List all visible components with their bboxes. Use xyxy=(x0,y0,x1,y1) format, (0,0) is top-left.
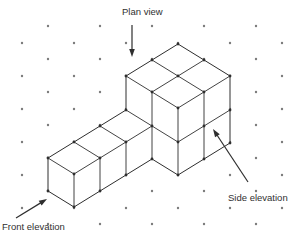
grid-dot xyxy=(229,207,231,209)
grid-dot xyxy=(99,25,101,27)
grid-dot xyxy=(125,42,127,44)
grid-dot xyxy=(151,25,153,27)
vertex-dot xyxy=(47,157,50,160)
grid-dot xyxy=(281,108,283,110)
grid-dot xyxy=(125,207,127,209)
grid-dot xyxy=(281,207,283,209)
grid-dot xyxy=(99,58,101,60)
vertex-dot xyxy=(151,158,154,161)
vertex-dot xyxy=(99,125,102,128)
grid-dot xyxy=(281,75,283,77)
vertex-dot xyxy=(229,142,232,145)
grid-dot xyxy=(255,58,257,60)
vertex-dot xyxy=(203,59,206,62)
grid-dot xyxy=(255,25,257,27)
vertex-dot xyxy=(125,141,128,144)
grid-dot xyxy=(21,75,23,77)
vertex-dot xyxy=(229,75,232,78)
grid-dot xyxy=(177,207,179,209)
vertex-dot xyxy=(125,75,128,78)
front-elevation-arrow-shaft xyxy=(16,202,42,218)
vertex-dot xyxy=(177,107,180,110)
side-elevation-arrow-shaft xyxy=(216,134,248,182)
grid-dot xyxy=(47,58,49,60)
grid-dot xyxy=(21,42,23,44)
vertex-dot xyxy=(203,91,206,94)
vertex-dot xyxy=(177,141,180,144)
grid-dot xyxy=(203,223,205,225)
vertex-dot xyxy=(151,91,154,94)
grid-dot xyxy=(21,174,23,176)
grid-dot xyxy=(229,42,231,44)
grid-dot xyxy=(281,174,283,176)
side-elevation-label: Side elevation xyxy=(228,192,288,203)
vertex-dot xyxy=(177,43,180,46)
grid-dot xyxy=(151,223,153,225)
vertex-dot xyxy=(73,173,76,176)
vertex-dot xyxy=(99,157,102,160)
grid-dot xyxy=(281,141,283,143)
isometric-diagram: Plan view Front elevation Side elevation xyxy=(0,0,292,235)
vertex-dot xyxy=(203,158,206,161)
grid-dot xyxy=(21,207,23,209)
vertex-dot xyxy=(177,174,180,177)
vertex-dot xyxy=(177,75,180,78)
grid-dot xyxy=(255,223,257,225)
grid-dot xyxy=(203,190,205,192)
grid-dot xyxy=(73,42,75,44)
grid-dot xyxy=(47,25,49,27)
vertex-dot xyxy=(125,174,128,177)
vertex-dot xyxy=(229,109,232,112)
grid-dot xyxy=(21,108,23,110)
vertex-dot xyxy=(99,190,102,193)
grid-dot xyxy=(151,190,153,192)
grid-dot xyxy=(73,108,75,110)
grid-dot xyxy=(47,91,49,93)
vertex-dot xyxy=(151,59,154,62)
grid-dot xyxy=(73,75,75,77)
grid-dot xyxy=(255,124,257,126)
front-elevation-label: Front elevation xyxy=(2,221,65,232)
grid-dot xyxy=(203,25,205,27)
vertex-dot xyxy=(73,141,76,144)
grid-dot xyxy=(281,42,283,44)
vertex-dot xyxy=(73,206,76,209)
grid-dot xyxy=(47,124,49,126)
grid-dot xyxy=(99,223,101,225)
vertex-dot xyxy=(203,125,206,128)
front-elevation-arrow-head xyxy=(39,199,47,206)
plan-view-label: Plan view xyxy=(122,6,163,17)
grid-dot xyxy=(255,157,257,159)
grid-dot xyxy=(255,91,257,93)
grid-dot xyxy=(99,91,101,93)
grid-dot xyxy=(229,174,231,176)
plan-view-arrow-head xyxy=(129,49,135,57)
grid-dot xyxy=(21,141,23,143)
vertex-dot xyxy=(125,109,128,112)
vertex-dot xyxy=(47,190,50,193)
vertex-dot xyxy=(151,125,154,128)
